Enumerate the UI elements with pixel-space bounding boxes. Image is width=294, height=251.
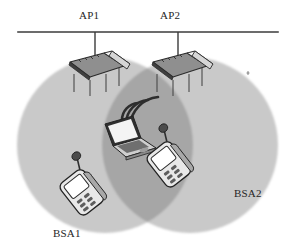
scan-artifact-speck [247,71,250,75]
laptop-station [105,116,156,160]
label-bsa1: BSA1 [53,228,81,239]
wlan-bsa-diagram: AP1 AP2 BSA1 BSA2 [0,0,294,251]
label-bsa2: BSA2 [234,188,262,199]
network-layer [0,0,294,251]
label-ap1: AP1 [79,10,99,21]
handheld-left-antenna-tip [70,150,82,162]
access-point-1 [69,51,130,96]
label-ap2: AP2 [160,10,180,21]
handheld-station-right [135,122,199,189]
handheld-right-antenna-tip [157,122,169,134]
handheld-station-left [48,150,112,217]
access-point-2 [152,51,213,96]
